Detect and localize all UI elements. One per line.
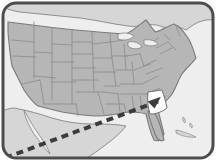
map-canvas xyxy=(0,0,216,161)
map-illustration-svg xyxy=(0,0,216,161)
map-figure xyxy=(0,0,216,161)
